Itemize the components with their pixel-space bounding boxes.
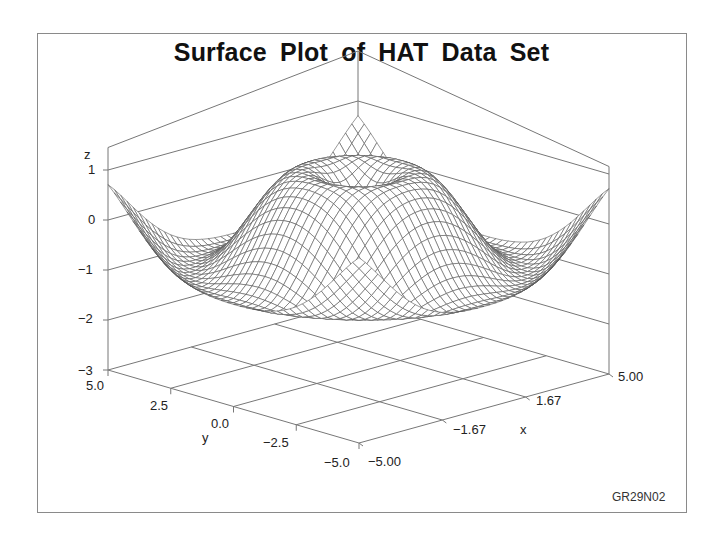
surface-mesh [108, 116, 609, 321]
x-tick [359, 443, 363, 446]
x-tick [609, 374, 613, 377]
z-axis-label: z [84, 147, 91, 162]
x-tick [526, 397, 530, 400]
floor-gridline [275, 324, 526, 397]
x-tick [442, 420, 446, 423]
y-tick-label: −5.0 [324, 455, 350, 470]
right-wall-top [358, 51, 609, 167]
y-tick-label: 5.0 [86, 378, 104, 393]
y-tick-label: 2.5 [150, 398, 168, 413]
x-axis-label: x [520, 422, 527, 437]
z-tick-label: −2 [78, 311, 93, 326]
z-tick-label: 0 [88, 212, 95, 227]
floor-gridline [234, 338, 484, 407]
x-tick-label: −5.00 [368, 454, 401, 469]
y-axis-label: y [202, 430, 209, 445]
floor-gridline [191, 347, 442, 420]
x-tick-label: −1.67 [453, 422, 486, 437]
x-tick-label: 1.67 [536, 393, 561, 408]
z-tick-label: −3 [78, 363, 93, 378]
left-wall-top [108, 51, 358, 148]
surface-plot: z 1 0 −1 −2 −3 5.0 2.5 0.0 −2.5 −5.0 y −… [0, 0, 723, 538]
y-tick-label: −2.5 [263, 435, 289, 450]
figure-id: GR29N02 [612, 490, 665, 504]
z-tick-label: 1 [88, 162, 95, 177]
y-tick-label: 0.0 [211, 416, 229, 431]
floor-gridline [171, 319, 421, 388]
x-tick-label: 5.00 [618, 369, 643, 384]
z-tick-label: −1 [78, 262, 93, 277]
floor-gridline [296, 356, 546, 425]
